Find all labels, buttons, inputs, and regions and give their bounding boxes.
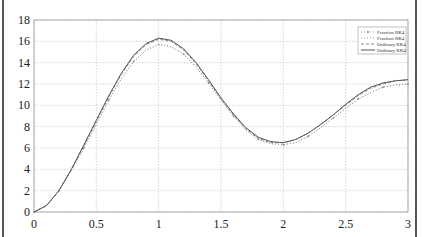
x-tick-label: 0 (31, 217, 37, 231)
y-tick-label: 8 (24, 120, 30, 134)
y-tick-label: 2 (24, 184, 30, 198)
legend-marker (367, 31, 369, 33)
x-tick-label: 1.5 (214, 217, 229, 231)
grid-lines (34, 20, 408, 212)
x-tick-label: 2 (280, 217, 286, 231)
data-marker (108, 99, 110, 101)
y-tick-label: 14 (18, 56, 30, 70)
line-chart: 024681012141618 00.511.522.53 Fraction R… (0, 0, 425, 237)
y-tick-label: 18 (18, 13, 30, 27)
y-tick-label: 16 (18, 34, 30, 48)
x-tick-label: 0.5 (89, 217, 104, 231)
y-tick-label: 0 (24, 205, 30, 219)
y-tick-label: 4 (24, 162, 30, 176)
legend: Fraction RK4Fraction RK4Ordinary RK4Ordi… (358, 27, 406, 54)
y-axis-ticks: 024681012141618 (18, 13, 30, 219)
data-marker (282, 144, 284, 146)
y-tick-label: 10 (18, 98, 30, 112)
x-tick-label: 3 (405, 217, 411, 231)
x-tick-label: 2.5 (338, 217, 353, 231)
data-marker (307, 135, 309, 137)
legend-label: Ordinary RK4 (377, 42, 406, 47)
y-tick-label: 6 (24, 141, 30, 155)
legend-label: Fraction RK4 (377, 36, 405, 41)
x-tick-label: 1 (156, 217, 162, 231)
legend-label: Ordinary RK4 (377, 48, 406, 53)
x-axis-ticks: 00.511.522.53 (31, 217, 411, 231)
y-tick-label: 12 (18, 77, 30, 91)
data-marker (382, 86, 384, 88)
legend-label: Fraction RK4 (377, 30, 405, 35)
